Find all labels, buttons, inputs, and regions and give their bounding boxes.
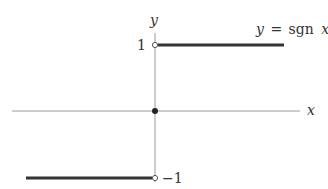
x-axis-label: x bbox=[307, 102, 315, 118]
function-label-eq: = bbox=[270, 21, 282, 37]
closed-point-origin bbox=[152, 108, 158, 114]
sgn-function-plot: y x 1 −1 y = sgn x bbox=[0, 0, 328, 189]
y-tick-minus-1: −1 bbox=[162, 170, 183, 186]
function-label-sgn: sgn bbox=[289, 21, 314, 37]
y-tick-1: 1 bbox=[137, 37, 146, 53]
function-label-x: x bbox=[321, 21, 328, 37]
function-label: y = sgn x bbox=[255, 21, 328, 37]
function-label-y: y bbox=[255, 21, 265, 37]
open-point-top bbox=[152, 42, 157, 47]
open-point-bottom bbox=[152, 175, 157, 180]
y-axis-label: y bbox=[149, 12, 159, 28]
